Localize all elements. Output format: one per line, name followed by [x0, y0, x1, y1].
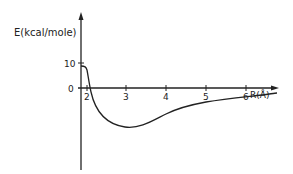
x-tick-label-5: 5	[203, 92, 209, 102]
x-tick-label-2: 2	[84, 92, 90, 102]
y-tick-label-0: 0	[68, 84, 74, 94]
x-tick-label-3: 3	[123, 92, 129, 102]
potential-energy-chart: 10 0 2 3 4 5 6 E(kcal/mole) R(Å)	[0, 0, 293, 174]
x-tick-label-4: 4	[163, 92, 169, 102]
y-axis-arrow-icon	[79, 12, 84, 20]
y-tick-label-10: 10	[64, 59, 76, 69]
x-axis-arrow-icon	[271, 86, 279, 91]
y-axis-label: E(kcal/mole)	[14, 27, 77, 38]
energy-curve	[81, 66, 277, 127]
